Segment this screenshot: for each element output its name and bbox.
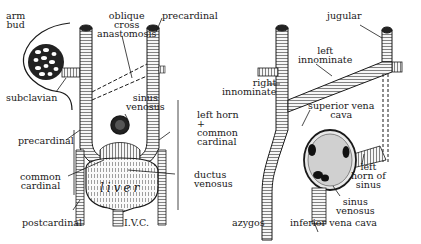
postcardinal-vessel-right — [158, 150, 166, 225]
label-postcardinal: postcardinal — [22, 218, 82, 227]
label-left-horn-common-cardinal: left horn + common cardinal — [197, 110, 239, 146]
label-left-innominate: left innominate — [298, 46, 352, 64]
label-ivc: I.V.C. — [124, 218, 149, 227]
label-precardinal-top: precardinal — [162, 11, 218, 20]
jugular-vessel — [382, 30, 392, 62]
left-precardinal-vessel — [80, 28, 104, 168]
label-arm-bud: arm bud — [6, 11, 25, 29]
right-innominate-vessel — [258, 68, 278, 76]
label-left-horn-of-sinus: left horn of sinus — [351, 162, 386, 189]
label-ductus-venosus: ductus venosus — [194, 170, 233, 188]
ivc-vessel-left — [113, 210, 123, 226]
label-right-innominate: right innominate — [222, 78, 276, 96]
label-precardinal-side: precardinal — [18, 136, 74, 145]
arm-bud-plexus — [28, 44, 64, 80]
label-superior-vena-cava: superior vena cava — [308, 101, 374, 119]
label-sinus-venosus-left: sinus venosus — [126, 93, 165, 111]
label-sinus-venosus-right: sinus venosus — [336, 197, 375, 215]
liver-label: liver — [100, 181, 142, 195]
postcardinal-vessel-left — [76, 150, 84, 225]
label-common-cardinal: common cardinal — [20, 172, 61, 190]
right-svc-vessel — [262, 28, 288, 240]
left-panel: liver — [23, 18, 178, 226]
label-subclavian: subclavian — [6, 93, 57, 102]
label-inferior-vena-cava: inferior vena cava — [290, 218, 377, 227]
label-jugular: jugular — [327, 11, 362, 20]
label-azygos: azygos — [232, 218, 265, 227]
label-oblique-cross-anastomosis: oblique cross anastomosis — [97, 11, 156, 38]
